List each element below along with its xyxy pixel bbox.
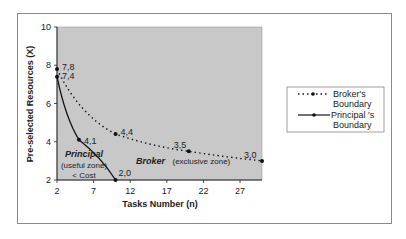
y-tick-label: 4: [46, 137, 51, 147]
broker-data-label: 3,5: [174, 140, 187, 150]
x-tick-label: 12: [125, 186, 135, 196]
x-tick-label: 17: [162, 186, 172, 196]
y-tick-label: 6: [46, 99, 51, 109]
y-tick-label: 10: [41, 22, 51, 32]
broker-point: [260, 159, 264, 163]
x-tick-label: 2: [54, 186, 59, 196]
broker-data-label: 4,4: [121, 127, 134, 137]
chart: 2468102712172227 7,84,43,53,07,44,12,0 T…: [0, 0, 406, 239]
principal-point: [77, 138, 81, 142]
principal-point: [55, 75, 59, 79]
principal-data-label: 7,4: [62, 71, 75, 81]
principal-zone-cost: < Cost: [72, 171, 96, 180]
principal-zone-title: Principal: [65, 149, 104, 159]
legend-broker-label-2: Boundary: [333, 99, 372, 109]
broker-zone-subtitle: (exclusive zone): [172, 157, 230, 166]
y-axis-label: Pre-selected Resources (X): [25, 46, 35, 163]
principal-zone-subtitle: (useful zone): [61, 161, 108, 170]
x-tick-label: 27: [235, 186, 245, 196]
legend-broker-marker: [311, 92, 315, 96]
x-tick-label: 22: [198, 186, 208, 196]
broker-zone-title: Broker: [136, 156, 166, 166]
x-tick-label: 7: [91, 186, 96, 196]
broker-point: [55, 67, 59, 71]
legend: Broker's Boundary Principal 's Boundary: [287, 87, 384, 132]
principal-data-label: 2,0: [119, 168, 132, 178]
broker-point: [187, 149, 191, 153]
y-tick-label: 8: [46, 60, 51, 70]
broker-point: [114, 132, 118, 136]
legend-broker-label-1: Broker's: [333, 89, 366, 99]
y-tick-label: 2: [46, 175, 51, 185]
legend-principal-label-2: Boundary: [333, 120, 372, 130]
broker-data-label: 3,0: [244, 150, 257, 160]
legend-principal-marker: [312, 113, 316, 117]
legend-principal-label-1: Principal 's: [331, 110, 375, 120]
x-axis-label: Tasks Number (n): [122, 199, 197, 209]
principal-point: [114, 178, 118, 182]
principal-data-label: 4,1: [84, 136, 97, 146]
